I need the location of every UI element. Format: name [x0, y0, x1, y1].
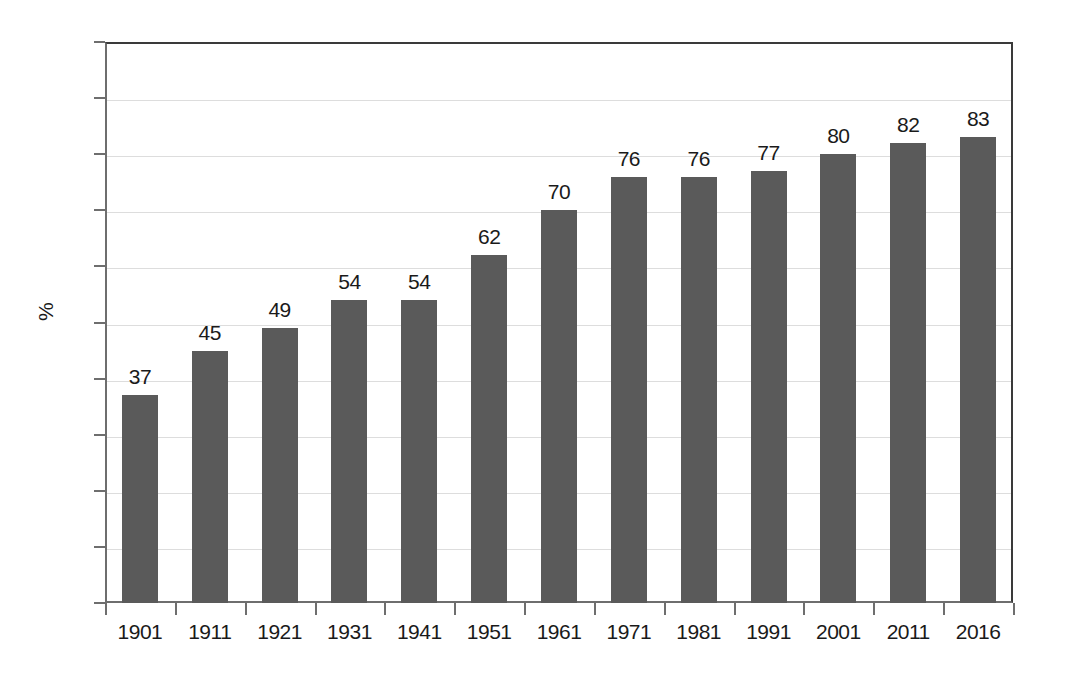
bar[interactable] — [820, 154, 856, 603]
y-tick-mark — [94, 153, 105, 155]
bar[interactable] — [331, 300, 367, 603]
x-tick-label: 1971 — [589, 621, 669, 642]
bar[interactable] — [611, 177, 647, 603]
bar[interactable] — [401, 300, 437, 603]
bar-slot: 37 — [105, 42, 175, 603]
bar-value-label: 45 — [199, 322, 221, 343]
bar-value-label: 77 — [757, 142, 779, 163]
x-tick-mark — [175, 603, 177, 615]
x-tick-mark — [664, 603, 666, 615]
bar[interactable] — [262, 328, 298, 603]
y-tick-mark — [94, 97, 105, 99]
y-tick-mark — [94, 265, 105, 267]
x-tick-label: 1991 — [729, 621, 809, 642]
bar[interactable] — [751, 171, 787, 603]
bar-value-label: 54 — [338, 271, 360, 292]
bar-slot: 62 — [454, 42, 524, 603]
bar-slot: 80 — [803, 42, 873, 603]
y-tick-mark — [94, 378, 105, 380]
x-tick-label: 1941 — [379, 621, 459, 642]
x-tick-mark — [105, 603, 107, 615]
bar-value-label: 54 — [408, 271, 430, 292]
bar-value-label: 76 — [688, 148, 710, 169]
x-tick-mark — [803, 603, 805, 615]
x-tick-mark — [245, 603, 247, 615]
x-tick-mark — [873, 603, 875, 615]
x-tick-mark — [454, 603, 456, 615]
bar-slot: 49 — [245, 42, 315, 603]
y-tick-mark — [94, 602, 105, 604]
x-tick-label: 1911 — [170, 621, 250, 642]
bars-group: 37454954546270767677808283 — [105, 42, 1013, 603]
x-tick-mark — [384, 603, 386, 615]
bar-slot: 76 — [664, 42, 734, 603]
y-tick-mark — [94, 434, 105, 436]
bar-slot: 54 — [315, 42, 385, 603]
bar[interactable] — [960, 137, 996, 603]
y-tick-mark — [94, 546, 105, 548]
x-tick-label: 1931 — [309, 621, 389, 642]
bar-slot: 77 — [734, 42, 804, 603]
x-tick-label: 2016 — [938, 621, 1018, 642]
y-tick-mark — [94, 322, 105, 324]
x-tick-mark — [943, 603, 945, 615]
y-tick-mark — [94, 209, 105, 211]
bar-value-label: 70 — [548, 181, 570, 202]
bar-slot: 82 — [873, 42, 943, 603]
bar-slot: 76 — [594, 42, 664, 603]
x-tick-label: 2001 — [798, 621, 878, 642]
x-tick-label: 1901 — [100, 621, 180, 642]
bar-value-label: 82 — [897, 114, 919, 135]
y-tick-mark — [94, 490, 105, 492]
bar[interactable] — [681, 177, 717, 603]
x-tick-label: 1921 — [240, 621, 320, 642]
y-tick-mark — [94, 41, 105, 43]
x-axis: 1901191119211931194119511961197119811991… — [105, 603, 1013, 663]
y-axis-title: % — [34, 292, 58, 332]
bar-slot: 70 — [524, 42, 594, 603]
bar-chart: % 0102030405060708090100 374549545462707… — [0, 0, 1070, 674]
bar-value-label: 76 — [618, 148, 640, 169]
x-tick-label: 2011 — [868, 621, 948, 642]
bar-value-label: 49 — [268, 299, 290, 320]
x-tick-mark — [734, 603, 736, 615]
x-tick-label: 1981 — [659, 621, 739, 642]
bar[interactable] — [890, 143, 926, 603]
bar-value-label: 62 — [478, 226, 500, 247]
bar[interactable] — [471, 255, 507, 603]
bar[interactable] — [541, 210, 577, 603]
x-tick-mark — [524, 603, 526, 615]
bar-slot: 83 — [943, 42, 1013, 603]
bar-value-label: 80 — [827, 125, 849, 146]
bar[interactable] — [122, 395, 158, 603]
x-tick-mark — [315, 603, 317, 615]
x-tick-mark — [1013, 603, 1015, 615]
x-tick-label: 1951 — [449, 621, 529, 642]
bar-value-label: 37 — [129, 366, 151, 387]
bar-value-label: 83 — [967, 108, 989, 129]
x-tick-mark — [594, 603, 596, 615]
bar-slot: 54 — [384, 42, 454, 603]
bar[interactable] — [192, 351, 228, 603]
x-tick-label: 1961 — [519, 621, 599, 642]
bar-slot: 45 — [175, 42, 245, 603]
